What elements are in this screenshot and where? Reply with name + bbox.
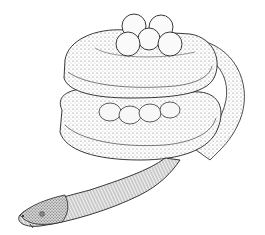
- nostril-icon: [22, 215, 24, 217]
- eye-icon: [40, 212, 45, 217]
- caecilian-illustration: [0, 0, 265, 235]
- eggs-top: [116, 14, 182, 56]
- body-neck-head: [19, 158, 180, 228]
- body-lower-coil: [60, 88, 221, 160]
